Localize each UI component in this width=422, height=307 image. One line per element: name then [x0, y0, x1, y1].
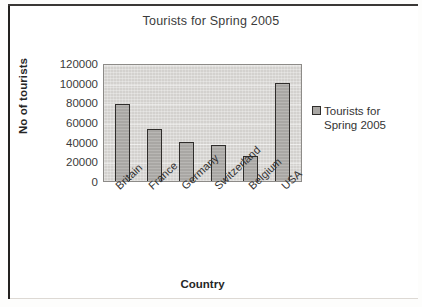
y-axis-tick-label: 60000 [40, 118, 98, 129]
legend-square-icon [312, 106, 321, 115]
y-axis-tick-labels: 120000100000800006000040000200000 [40, 56, 98, 188]
chart-legend: Tourists for Spring 2005 [312, 104, 386, 132]
scanned-page: Tourists for Spring 2005 No of tourists … [0, 0, 422, 307]
page-left-border [8, 4, 10, 299]
chart-title: Tourists for Spring 2005 [0, 14, 422, 28]
y-axis-tick-label: 120000 [40, 59, 98, 70]
y-axis-tick-label: 0 [40, 177, 98, 188]
legend-label: Tourists for Spring 2005 [324, 104, 386, 132]
y-axis-tick-label: 20000 [40, 157, 98, 168]
page-top-border [8, 4, 418, 6]
page-bottom-border [10, 298, 418, 299]
legend-label-line1: Tourists for [324, 105, 380, 117]
y-axis-tick-label: 100000 [40, 79, 98, 90]
y-axis-tick-label: 40000 [40, 138, 98, 149]
y-axis-tick-label: 80000 [40, 98, 98, 109]
x-axis-tick-labels: BritainFranceGermanySwitzerlandBelgiumUS… [103, 183, 302, 243]
x-axis-title: Country [103, 278, 302, 290]
legend-label-line2: Spring 2005 [324, 119, 386, 131]
y-axis-title: No of tourists [17, 46, 29, 146]
